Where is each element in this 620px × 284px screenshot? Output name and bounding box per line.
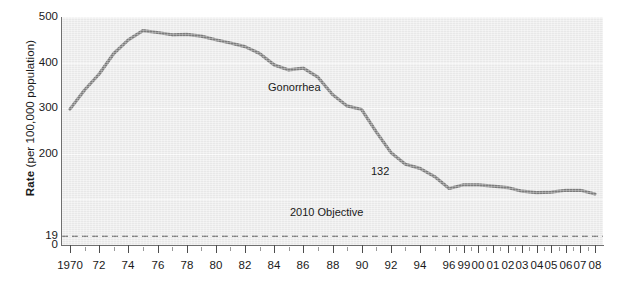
x-axis-tick-minor — [471, 247, 472, 251]
x-axis-tick-minor — [435, 247, 436, 251]
x-axis-tick-major — [493, 245, 494, 253]
x-axis-tick-major — [187, 245, 188, 253]
x-axis-tick-labels: 1970727476788082848688909294969900010203… — [0, 259, 620, 279]
x-axis-tick-minor — [172, 247, 173, 251]
x-axis-tick-minor — [559, 247, 560, 251]
x-axis-tick-label: 84 — [268, 259, 281, 271]
x-axis-tick-major — [508, 245, 509, 253]
x-axis-tick-minor — [114, 247, 115, 251]
x-axis-tick-minor — [486, 247, 487, 251]
x-axis-tick-minor — [289, 247, 290, 251]
x-axis-tick-minor — [260, 247, 261, 251]
objective-line-annotation: 2010 Objective — [290, 206, 363, 218]
data-point-annotation-132: 132 — [371, 165, 389, 177]
x-axis-tick-minor — [456, 247, 457, 251]
x-axis-tick-label: 99 — [458, 259, 471, 271]
gonorrhea-rate-chart: Rate (per 100,000 population) 5004003002… — [0, 0, 620, 284]
x-axis-tick-major — [449, 245, 450, 253]
x-axis-tick-major — [274, 245, 275, 253]
x-axis-tick-minor — [588, 247, 589, 251]
x-axis-tick-label: 78 — [181, 259, 194, 271]
y-axis-tick-label: 300 — [22, 101, 58, 113]
y-axis-tick-label: 400 — [22, 56, 58, 68]
x-axis-tick-major — [551, 245, 552, 253]
x-axis-tick-major — [245, 245, 246, 253]
x-axis-tick-label: 1970 — [57, 259, 83, 271]
x-axis-tick-label: 07 — [574, 259, 587, 271]
x-axis-tick-label: 72 — [93, 259, 106, 271]
x-axis-tick-major — [580, 245, 581, 253]
x-axis-tick-major — [128, 245, 129, 253]
x-axis-tick-major — [333, 245, 334, 253]
x-axis-tick-major — [566, 245, 567, 253]
x-axis-tick-label: 90 — [356, 259, 369, 271]
x-axis-tick-label: 06 — [560, 259, 573, 271]
x-axis-tick-label: 01 — [487, 259, 500, 271]
x-axis-tick-label: 94 — [414, 259, 427, 271]
x-axis-tick-minor — [230, 247, 231, 251]
x-axis-tick-major — [391, 245, 392, 253]
x-axis-tick-label: 04 — [531, 259, 544, 271]
x-axis-tick-minor — [405, 247, 406, 251]
x-axis-tick-label: 88 — [327, 259, 340, 271]
x-axis-tick-major — [595, 245, 596, 253]
x-axis-tick-minor — [376, 247, 377, 251]
x-axis-tick-major — [362, 245, 363, 253]
x-axis-tick-minor — [544, 247, 545, 251]
x-axis-tick-label: 82 — [239, 259, 252, 271]
y-axis-line — [61, 17, 62, 245]
x-axis-tick-label: 74 — [122, 259, 135, 271]
x-axis-tick-minor — [318, 247, 319, 251]
x-axis-tick-major — [537, 245, 538, 253]
x-axis-tick-label: 92 — [385, 259, 398, 271]
x-axis-tick-major — [420, 245, 421, 253]
x-axis-tick-label: 80 — [210, 259, 223, 271]
x-axis-tick-major — [303, 245, 304, 253]
x-axis-tick-minor — [573, 247, 574, 251]
x-axis-tick-major — [522, 245, 523, 253]
series-line-gonorrhea — [70, 31, 595, 194]
x-axis-tick-label: 86 — [297, 259, 310, 271]
x-axis-ticks — [0, 245, 620, 257]
x-axis-tick-major — [99, 245, 100, 253]
x-axis-tick-minor — [85, 247, 86, 251]
y-axis-tick-labels: 500400300200190 — [14, 0, 58, 284]
x-axis-tick-label: 08 — [589, 259, 602, 271]
x-axis-tick-minor — [515, 247, 516, 251]
x-axis-tick-label: 03 — [516, 259, 529, 271]
x-axis-tick-major — [158, 245, 159, 253]
series-annotation-gonorrhea: Gonorrhea — [268, 81, 321, 93]
y-axis-tick-label: 500 — [22, 10, 58, 22]
x-axis-tick-minor — [347, 247, 348, 251]
x-axis-tick-minor — [529, 247, 530, 251]
x-axis-tick-label: 00 — [472, 259, 485, 271]
x-axis-tick-label: 76 — [152, 259, 165, 271]
x-axis-tick-minor — [143, 247, 144, 251]
x-axis-tick-minor — [500, 247, 501, 251]
x-axis-tick-major — [70, 245, 71, 253]
x-axis-tick-major — [216, 245, 217, 253]
y-axis-tick-label: 200 — [22, 147, 58, 159]
x-axis-tick-label: 96 — [443, 259, 456, 271]
x-axis-tick-major — [478, 245, 479, 253]
x-axis-tick-label: 02 — [502, 259, 515, 271]
x-axis-tick-label: 05 — [545, 259, 558, 271]
x-axis-tick-minor — [201, 247, 202, 251]
x-axis-tick-major — [464, 245, 465, 253]
